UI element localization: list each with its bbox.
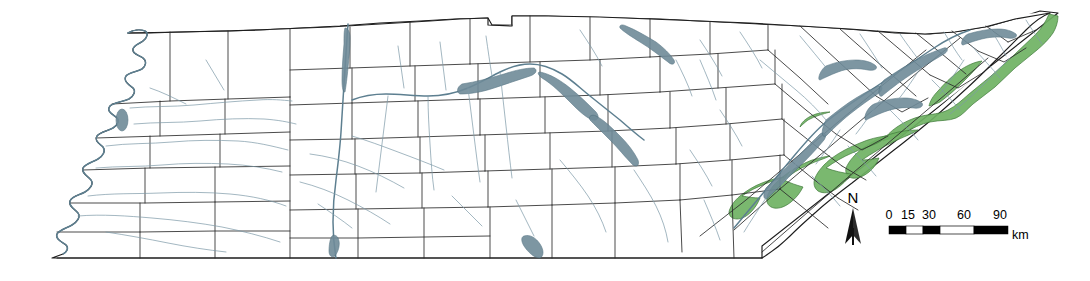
scale-tick-90: 90 (993, 208, 1007, 222)
scale-tick-0: 0 (886, 208, 893, 222)
scale-segment-15-30 (906, 226, 923, 234)
scale-segment-0-15 (889, 226, 906, 234)
tennessee-map-canvas: N 0 15 30 60 90 km (0, 0, 1090, 281)
north-arrow-label: N (848, 189, 859, 206)
scale-segment-60-90 (974, 226, 1008, 234)
scale-segment-45-60 (940, 226, 974, 234)
scale-tick-60: 60 (957, 208, 971, 222)
scale-unit-label: km (1012, 228, 1029, 242)
scale-tick-30: 30 (922, 208, 936, 222)
north-arrow-shaft (852, 228, 854, 245)
scale-tick-15: 15 (901, 208, 915, 222)
reelfoot-lake (116, 109, 128, 131)
map-figure: N 0 15 30 60 90 km (0, 0, 1090, 281)
scale-segment-30-45 (923, 226, 940, 234)
